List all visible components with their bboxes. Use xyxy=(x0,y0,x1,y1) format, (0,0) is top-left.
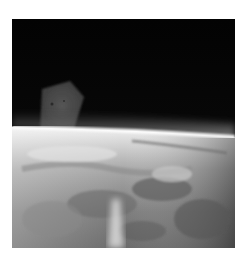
object-spot xyxy=(51,103,54,106)
earth-from-space-photo: Grayscale photograph of Earth's curved h… xyxy=(12,19,235,248)
object-spot xyxy=(63,100,65,102)
photo-canvas xyxy=(12,19,235,248)
